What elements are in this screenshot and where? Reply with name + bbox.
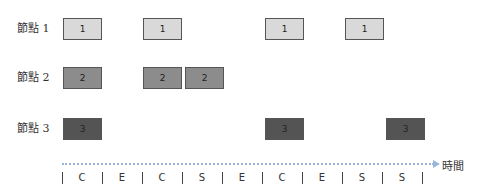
time-axis-line xyxy=(62,163,434,165)
row-label-node-2: 節點 2 xyxy=(17,71,50,85)
slot-label: E xyxy=(112,172,132,184)
node-3-slot-5-box: 3 xyxy=(265,118,304,140)
tick xyxy=(142,172,143,184)
row-label-node-3: 節點 3 xyxy=(17,122,50,136)
tick xyxy=(342,172,343,184)
tick xyxy=(102,172,103,184)
slot-label: C xyxy=(72,172,92,184)
slot-label: C xyxy=(152,172,172,184)
node-2-slot-0-box: 2 xyxy=(63,67,102,89)
time-axis-arrow-icon xyxy=(433,160,440,168)
time-axis-label: 時間 xyxy=(442,157,464,173)
node-2-slot-3-box: 2 xyxy=(185,67,224,89)
tick xyxy=(182,172,183,184)
node-1-slot-0-box: 1 xyxy=(63,18,102,40)
tick xyxy=(222,172,223,184)
tick xyxy=(302,172,303,184)
slot-label: E xyxy=(312,172,332,184)
node-2-slot-2-box: 2 xyxy=(143,67,182,89)
slot-label: E xyxy=(232,172,252,184)
node-3-slot-8-box: 3 xyxy=(386,118,425,140)
tick xyxy=(422,172,423,184)
row-label-node-1: 節點 1 xyxy=(17,22,50,36)
node-3-slot-0-box: 3 xyxy=(63,118,102,140)
slot-label: S xyxy=(392,172,412,184)
slot-label: C xyxy=(272,172,292,184)
node-1-slot-2-box: 1 xyxy=(143,18,182,40)
slot-label: S xyxy=(192,172,212,184)
slot-label: S xyxy=(352,172,372,184)
tick xyxy=(62,172,63,184)
tick xyxy=(262,172,263,184)
node-1-slot-7-box: 1 xyxy=(345,18,384,40)
tick xyxy=(382,172,383,184)
node-1-slot-5-box: 1 xyxy=(265,18,304,40)
